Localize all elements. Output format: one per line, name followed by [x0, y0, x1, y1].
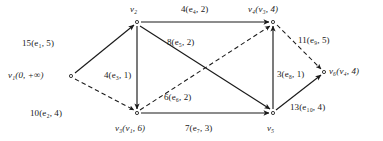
node-dot-v3: [135, 111, 139, 115]
edge-label-e6: 6(e₆, 2): [164, 93, 191, 102]
edge-label-e2: 10(e₂, 4): [30, 109, 62, 118]
edge-label-e1: 15(e₁, 5): [22, 39, 54, 48]
edge-label-e9: 11(e₉, 5): [298, 36, 330, 45]
edge-label-e8: 3(e₈, 1): [277, 70, 304, 79]
node-label-v3: v₃(v₁, 6): [115, 124, 145, 133]
edge-e1: [75, 25, 134, 73]
node-dot-v5: [271, 111, 275, 115]
node-label-v5: v₅: [267, 124, 274, 133]
node-label-v4: v₄(v₃, 4): [248, 5, 278, 14]
node-dot-v1: [69, 74, 73, 78]
edge-label-e3: 4(e₃, 1): [104, 71, 131, 80]
edge-label-e10: 13(e₁₀, 4): [290, 103, 325, 112]
edge-label-e7: 7(e₇, 3): [185, 124, 212, 133]
node-dot-v6: [322, 70, 326, 74]
node-label-v2: v₂: [130, 5, 137, 14]
edge-e9: [277, 25, 321, 69]
node-label-v6: v₆(v₄, 4): [329, 67, 359, 76]
node-dot-v2: [135, 20, 139, 24]
edge-label-e5: 8(e₅, 2): [167, 38, 194, 47]
edge-label-e4: 4(e₄, 2): [181, 5, 208, 14]
node-dot-v4: [271, 20, 275, 24]
graph-figure: v₁(0, +∞) v₂ v₃(v₁, 6) v₄(v₃, 4) v₅ v₆(v…: [0, 0, 383, 141]
node-label-v1: v₁(0, +∞): [8, 71, 44, 80]
edge-e2: [75, 79, 134, 110]
